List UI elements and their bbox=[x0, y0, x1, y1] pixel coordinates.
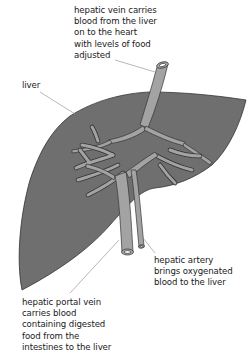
leader-hepatic-vein bbox=[115, 60, 155, 72]
hepatic-vein-label: hepatic vein carries blood from the live… bbox=[74, 5, 157, 61]
hepatic-vein-label-line: hepatic vein carries bbox=[74, 5, 157, 16]
liver-label-line: liver bbox=[22, 80, 40, 91]
hepatic-portal-vein-label-line: carries blood bbox=[22, 308, 111, 319]
liver-label: liver bbox=[22, 80, 40, 91]
hepatic-portal-vein-label-line: containing digested bbox=[22, 319, 111, 330]
hepatic-vein-label-line: blood from the liver bbox=[74, 16, 157, 27]
leader-hepatic-artery bbox=[143, 238, 155, 253]
hepatic-portal-vein-label-line: hepatic portal vein bbox=[22, 297, 111, 308]
hepatic-vein-label-line: on to the heart bbox=[74, 27, 157, 38]
hepatic-vein-label-line: adjusted bbox=[74, 50, 157, 61]
hepatic-artery-label-line: hepatic artery bbox=[154, 255, 233, 266]
hepatic-portal-vein-label: hepatic portal vein carries blood contai… bbox=[22, 297, 111, 351]
hepatic-portal-vein-label-line: food from the bbox=[22, 331, 111, 342]
hepatic-artery-label-line: blood to the liver bbox=[154, 277, 233, 288]
hepatic-artery-label-line: brings oxygenated bbox=[154, 266, 233, 277]
hepatic-portal-vein-label-line: intestines to the liver bbox=[22, 342, 111, 351]
hepatic-vein-label-line: with levels of food bbox=[74, 39, 157, 50]
leader-liver bbox=[40, 92, 75, 114]
hepatic-artery-label: hepatic artery brings oxygenated blood t… bbox=[154, 255, 233, 289]
